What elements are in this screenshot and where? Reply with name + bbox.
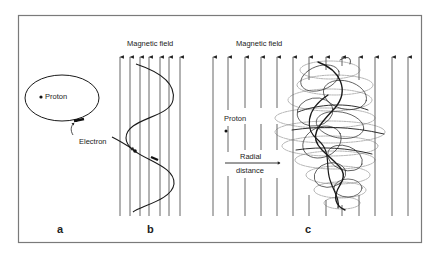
electron-dot-b2 (151, 157, 158, 160)
electron-pointer-arrow (71, 123, 74, 135)
electron-dot-b1 (133, 149, 137, 153)
panel-c-field-lines (213, 57, 408, 216)
proton-dot (39, 95, 42, 98)
distance-label: distance (236, 167, 264, 175)
proton-label-c: Proton (224, 115, 246, 123)
electron-orbit-figure: Proton Electron a Magnetic field b Magne… (0, 0, 438, 256)
figure-frame (19, 16, 422, 243)
magnetic-field-label-c: Magnetic field (236, 40, 282, 48)
figure-graphics (0, 0, 438, 256)
proton-dot-c (225, 130, 228, 133)
panel-b-helical-path (112, 64, 174, 212)
magnetic-field-label-b: Magnetic field (127, 40, 173, 48)
panel-c-chaotic-trajectory (275, 57, 385, 210)
electron-label: Electron (79, 138, 107, 146)
panel-b-field-lines (120, 57, 180, 216)
panel-b-label: b (147, 224, 154, 235)
electron-dot (74, 119, 77, 122)
panel-c-label: c (305, 224, 311, 235)
radial-label: Radial (240, 153, 261, 161)
panel-a (25, 75, 99, 135)
proton-label-a: Proton (45, 93, 67, 101)
panel-a-label: a (57, 224, 63, 235)
